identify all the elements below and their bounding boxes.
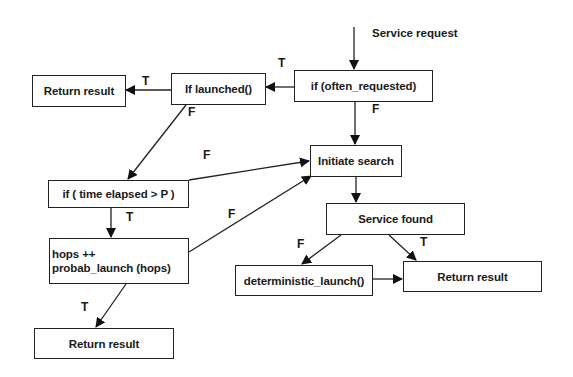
node-initiate-search: Initiate search <box>310 145 402 177</box>
label-time-to-search: F <box>203 148 210 162</box>
edge-hops-to-search <box>189 176 311 252</box>
node-deterministic-launch: deterministic_launch() <box>235 265 373 296</box>
node-often-requested-text: if (often_requested) <box>311 80 416 92</box>
node-return-result-bottom: Return result <box>34 328 174 359</box>
label-found-to-deterministic: F <box>297 237 304 251</box>
node-time-elapsed-text: if ( time elapsed > P ) <box>62 188 174 200</box>
edge-launched-to-time <box>128 105 186 179</box>
node-often-requested: if (often_requested) <box>294 70 433 102</box>
label-often-to-launched: T <box>278 56 285 70</box>
node-initiate-search-text: Initiate search <box>318 155 394 167</box>
edge-time-to-search <box>189 161 309 180</box>
node-return-result-bottom-text: Return result <box>69 338 139 350</box>
node-return-result-right: Return result <box>403 261 542 292</box>
node-hops-probab-launch: hops ++ probab_launch (hops) <box>49 238 189 284</box>
node-return-result-top-text: Return result <box>44 85 114 97</box>
node-time-elapsed: if ( time elapsed > P ) <box>48 180 189 208</box>
node-launched-text: If launched() <box>185 83 252 95</box>
edge-hops-to-return <box>96 284 126 327</box>
node-launched: If launched() <box>171 73 266 105</box>
node-return-result-top: Return result <box>32 75 126 107</box>
label-launched-to-time: F <box>188 105 195 119</box>
node-hops-line2: probab_launch (hops) <box>52 261 171 275</box>
label-launched-to-return: T <box>142 74 149 88</box>
label-hops-to-search: F <box>228 207 235 221</box>
label-found-to-return: T <box>420 235 427 249</box>
flowchart: Service request if (often_requested) If … <box>0 0 573 377</box>
label-hops-to-return: T <box>81 300 88 314</box>
node-return-result-right-text: Return result <box>437 271 507 283</box>
service-request-label: Service request <box>372 27 458 39</box>
node-deterministic-launch-text: deterministic_launch() <box>244 275 365 287</box>
label-often-to-search: F <box>372 102 379 116</box>
label-time-to-hops: T <box>126 210 133 224</box>
node-hops-line1: hops ++ <box>52 247 95 261</box>
node-service-found-text: Service found <box>358 213 433 225</box>
edge-found-to-deterministic <box>302 235 341 264</box>
node-service-found: Service found <box>326 203 465 235</box>
edge-found-to-return <box>389 235 416 260</box>
